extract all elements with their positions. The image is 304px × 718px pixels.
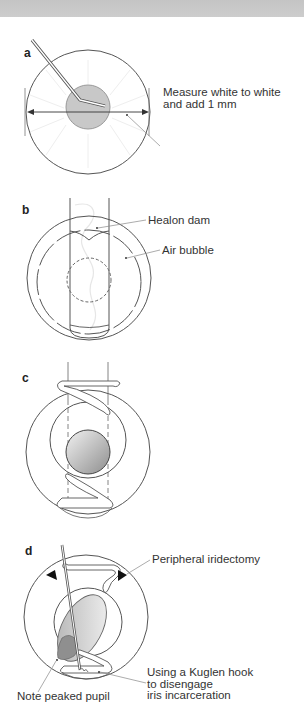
panel-b-drawing (27, 198, 160, 340)
panel-b-label: b (22, 203, 29, 217)
peaked-pupil-annotation: Note peaked pupil (17, 690, 110, 702)
panel-d-drawing (24, 545, 150, 692)
healon-dam-annotation: Healon dam (148, 214, 210, 226)
panel-c-drawing (26, 362, 150, 518)
annotation-line: Air bubble (162, 244, 214, 256)
kuglen-hook-annotation: Using a Kuglen hook to disengage iris in… (147, 667, 253, 702)
panel-a-drawing (25, 40, 160, 174)
annotation-line: Healon dam (148, 214, 210, 226)
annotation-line: Measure white to white (163, 86, 281, 98)
air-bubble-annotation: Air bubble (162, 244, 214, 256)
annotation-line: and add 1 mm (163, 98, 281, 110)
annotation-line: Using a Kuglen hook (147, 667, 253, 679)
annotation-line: Peripheral iridectomy (152, 553, 260, 565)
annotation-line: Note peaked pupil (17, 690, 110, 702)
panel-c-label: c (22, 371, 29, 385)
annotation-line: iris incarceration (147, 690, 253, 702)
measure-annotation: Measure white to white and add 1 mm (163, 86, 281, 110)
panel-d-label: d (25, 544, 32, 558)
peripheral-iridectomy-annotation: Peripheral iridectomy (152, 553, 260, 565)
panel-a-label: a (24, 46, 31, 60)
